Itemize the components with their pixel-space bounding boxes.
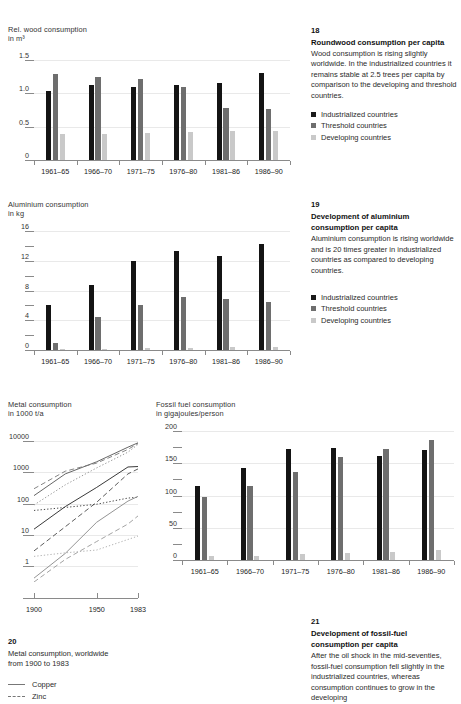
note-18-title: Roundwood consumption per capita bbox=[311, 38, 461, 48]
x-group-separator bbox=[290, 351, 291, 355]
note-21-title-line2: consumption per capita bbox=[311, 640, 461, 650]
y-tick bbox=[173, 528, 182, 529]
chart-wood-title-line2: in m³ bbox=[8, 34, 25, 44]
bar bbox=[259, 244, 264, 350]
y-tick bbox=[25, 60, 34, 61]
y-tick-label: 0 bbox=[0, 341, 29, 350]
x-group-separator bbox=[205, 351, 206, 355]
x-category-label: 1966–70 bbox=[227, 567, 272, 576]
y-tick bbox=[25, 231, 34, 232]
legend-item-developing: Developing countries bbox=[311, 133, 461, 142]
note-18-legend: Industrialized countries Threshold count… bbox=[311, 110, 461, 142]
x-axis bbox=[25, 160, 290, 161]
y-tick bbox=[25, 127, 34, 128]
bar bbox=[102, 134, 107, 160]
x-group-separator bbox=[247, 161, 248, 165]
x-category-label: 1986–90 bbox=[247, 357, 290, 366]
bar bbox=[188, 132, 193, 160]
y-tick-label: 150 bbox=[148, 454, 177, 463]
x-tick bbox=[34, 593, 35, 598]
gridline bbox=[182, 496, 454, 497]
y-tick bbox=[173, 463, 182, 464]
legend-item-threshold: Threshold countries bbox=[311, 304, 461, 313]
y-tick bbox=[173, 431, 182, 432]
bar bbox=[266, 109, 271, 160]
y-tick bbox=[173, 512, 182, 513]
x-group-separator bbox=[290, 161, 291, 165]
x-group-separator bbox=[318, 561, 319, 565]
legend-label-developing: Developing countries bbox=[321, 133, 391, 142]
x-category-label: 1976–80 bbox=[318, 567, 363, 576]
note-21-number: 21 bbox=[311, 617, 461, 626]
bar bbox=[230, 347, 235, 350]
y-tick bbox=[25, 93, 34, 94]
bar bbox=[60, 134, 65, 160]
x-axis bbox=[173, 560, 454, 561]
bar bbox=[89, 285, 94, 350]
metal-series-lines bbox=[34, 432, 138, 582]
bar bbox=[131, 87, 136, 160]
gridline bbox=[182, 528, 454, 529]
y-tick bbox=[23, 441, 34, 442]
y-tick-label: 8 bbox=[0, 282, 29, 291]
note-19-title-line1: Development of aluminium bbox=[311, 212, 461, 222]
x-tick bbox=[138, 593, 139, 598]
x-tick bbox=[97, 593, 98, 598]
series-line bbox=[34, 496, 138, 578]
x-group-separator bbox=[77, 161, 78, 165]
bar bbox=[230, 131, 235, 160]
y-tick-label: 10000 bbox=[0, 432, 29, 441]
chart-aluminium-plot: 04812161961–651966–701971–751976–801981–… bbox=[34, 231, 290, 350]
legend-swatch-industrialized-icon bbox=[311, 295, 316, 300]
y-tick-label: 100 bbox=[0, 495, 29, 504]
x-category-label: 1981–86 bbox=[205, 357, 248, 366]
note-21: 21 Development of fossil-fuel consumptio… bbox=[311, 617, 461, 703]
y-tick-label: 12 bbox=[0, 252, 29, 261]
note-19-body: Aluminium consumption is rising worldwid… bbox=[311, 234, 461, 276]
x-category-label: 1961–65 bbox=[34, 357, 77, 366]
y-tick bbox=[173, 447, 182, 448]
x-group-separator bbox=[247, 351, 248, 355]
note-21-title-line1: Development of fossil-fuel bbox=[311, 629, 461, 639]
chart-fossil: Fossil fuel consumption in gigajoules/pe… bbox=[148, 398, 461, 608]
gridline bbox=[34, 231, 290, 232]
x-axis bbox=[25, 350, 290, 351]
legend-line-copper-icon bbox=[8, 684, 25, 685]
x-category-label: 1981–86 bbox=[363, 567, 408, 576]
x-axis bbox=[23, 598, 138, 599]
x-category-label: 1961–65 bbox=[34, 167, 77, 176]
chart-fossil-title-line2: in gigajoules/person bbox=[156, 409, 224, 419]
bar bbox=[259, 73, 264, 160]
chart-metal-plot: 110100100010000190019501983 bbox=[34, 432, 138, 582]
x-category-label: 1966–70 bbox=[77, 167, 120, 176]
legend-label-industrialized: Industrialized countries bbox=[321, 110, 398, 119]
bar bbox=[138, 79, 143, 160]
x-group-separator bbox=[227, 561, 228, 565]
x-group-separator bbox=[363, 561, 364, 565]
gridline bbox=[34, 127, 290, 128]
gridline bbox=[34, 291, 290, 292]
bar bbox=[145, 348, 150, 350]
y-tick bbox=[25, 305, 34, 306]
chart-aluminium: Aluminium consumption in kg 04812161961–… bbox=[0, 195, 300, 385]
chart-wood: Rel. wood consumption in m³ 00.51.01.519… bbox=[0, 0, 300, 190]
series-line bbox=[34, 497, 138, 510]
bar bbox=[95, 77, 100, 160]
bar bbox=[345, 553, 350, 560]
legend-swatch-industrialized-icon bbox=[311, 112, 316, 117]
bar bbox=[195, 486, 200, 560]
note-20-number: 20 bbox=[8, 637, 148, 646]
bar bbox=[300, 554, 305, 560]
gridline bbox=[182, 431, 454, 432]
legend-line-zinc-icon bbox=[8, 696, 25, 697]
y-tick-label: 16 bbox=[0, 222, 29, 231]
legend-item-industrialized: Industrialized countries bbox=[311, 293, 461, 302]
note-19-number: 19 bbox=[311, 200, 461, 209]
x-tick-label: 1900 bbox=[12, 605, 56, 614]
bar bbox=[273, 131, 278, 160]
x-group-separator bbox=[162, 351, 163, 355]
bar bbox=[331, 448, 336, 560]
x-group-separator bbox=[34, 351, 35, 355]
bar bbox=[181, 297, 186, 350]
